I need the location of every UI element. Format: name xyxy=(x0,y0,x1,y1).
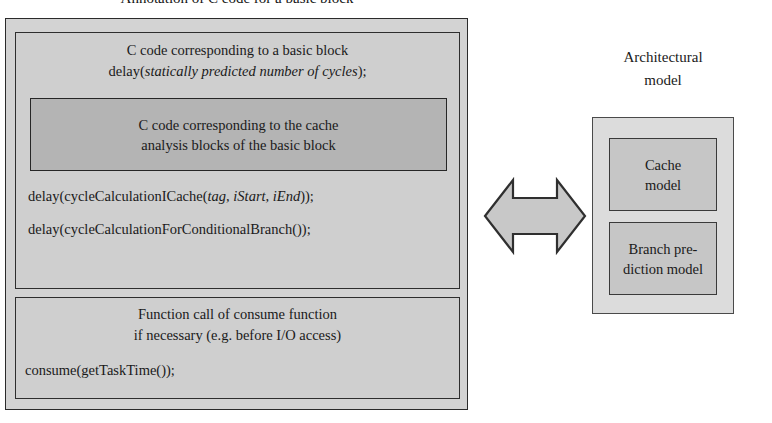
basic-block-delay-call: delay(statically predicted number of cyc… xyxy=(16,61,459,82)
icache-call-suffix: )); xyxy=(300,188,314,204)
basic-block-heading-line1: C code corresponding to a basic block xyxy=(16,40,459,61)
architectural-label-line1: Architectural xyxy=(592,46,734,69)
icache-call-arguments: tag, iStart, iEnd xyxy=(208,188,301,204)
consume-call: consume(getTaskTime()); xyxy=(25,360,175,380)
delay-call-prefix: delay( xyxy=(109,63,145,79)
figure-title: Annotation of C code for a basic block xyxy=(0,0,474,8)
double-headed-horizontal-arrow-icon xyxy=(483,172,587,260)
branch-model-line2: diction model xyxy=(623,259,703,279)
branch-model-line1: Branch pre- xyxy=(623,239,703,259)
consume-heading-line1: Function call of consume function xyxy=(16,304,459,325)
cache-model-text: Cache model xyxy=(645,155,681,195)
cache-analysis-line1: C code corresponding to the cache xyxy=(138,115,338,135)
cache-analysis-line2: analysis blocks of the basic block xyxy=(138,135,338,155)
branch-prediction-model-box: Branch pre- diction model xyxy=(609,222,717,295)
icache-delay-call: delay(cycleCalculationICache(tag, iStart… xyxy=(28,186,314,206)
cache-analysis-text: C code corresponding to the cache analys… xyxy=(138,115,338,155)
branch-model-text: Branch pre- diction model xyxy=(623,239,703,279)
delay-call-argument: statically predicted number of cycles xyxy=(145,63,358,79)
delay-call-suffix: ); xyxy=(358,63,367,79)
architectural-model-label: Architectural model xyxy=(592,46,734,92)
annotation-outer-frame: C code corresponding to a basic block de… xyxy=(5,18,468,410)
cache-model-line2: model xyxy=(645,175,681,195)
consume-panel: Function call of consume function if nec… xyxy=(15,297,460,399)
consume-heading-line2: if necessary (e.g. before I/O access) xyxy=(16,325,459,346)
architectural-model-container: Cache model Branch pre- diction model xyxy=(592,117,734,314)
cache-analysis-block: C code corresponding to the cache analys… xyxy=(30,98,447,171)
consume-heading: Function call of consume function if nec… xyxy=(16,304,459,346)
basic-block-panel: C code corresponding to a basic block de… xyxy=(15,32,460,289)
architectural-label-line2: model xyxy=(592,69,734,92)
cache-model-line1: Cache xyxy=(645,155,681,175)
cache-model-box: Cache model xyxy=(609,138,717,211)
basic-block-heading: C code corresponding to a basic block de… xyxy=(16,40,459,82)
icache-call-prefix: delay(cycleCalculationICache( xyxy=(28,188,208,204)
branch-delay-call: delay(cycleCalculationForConditionalBran… xyxy=(28,219,311,239)
